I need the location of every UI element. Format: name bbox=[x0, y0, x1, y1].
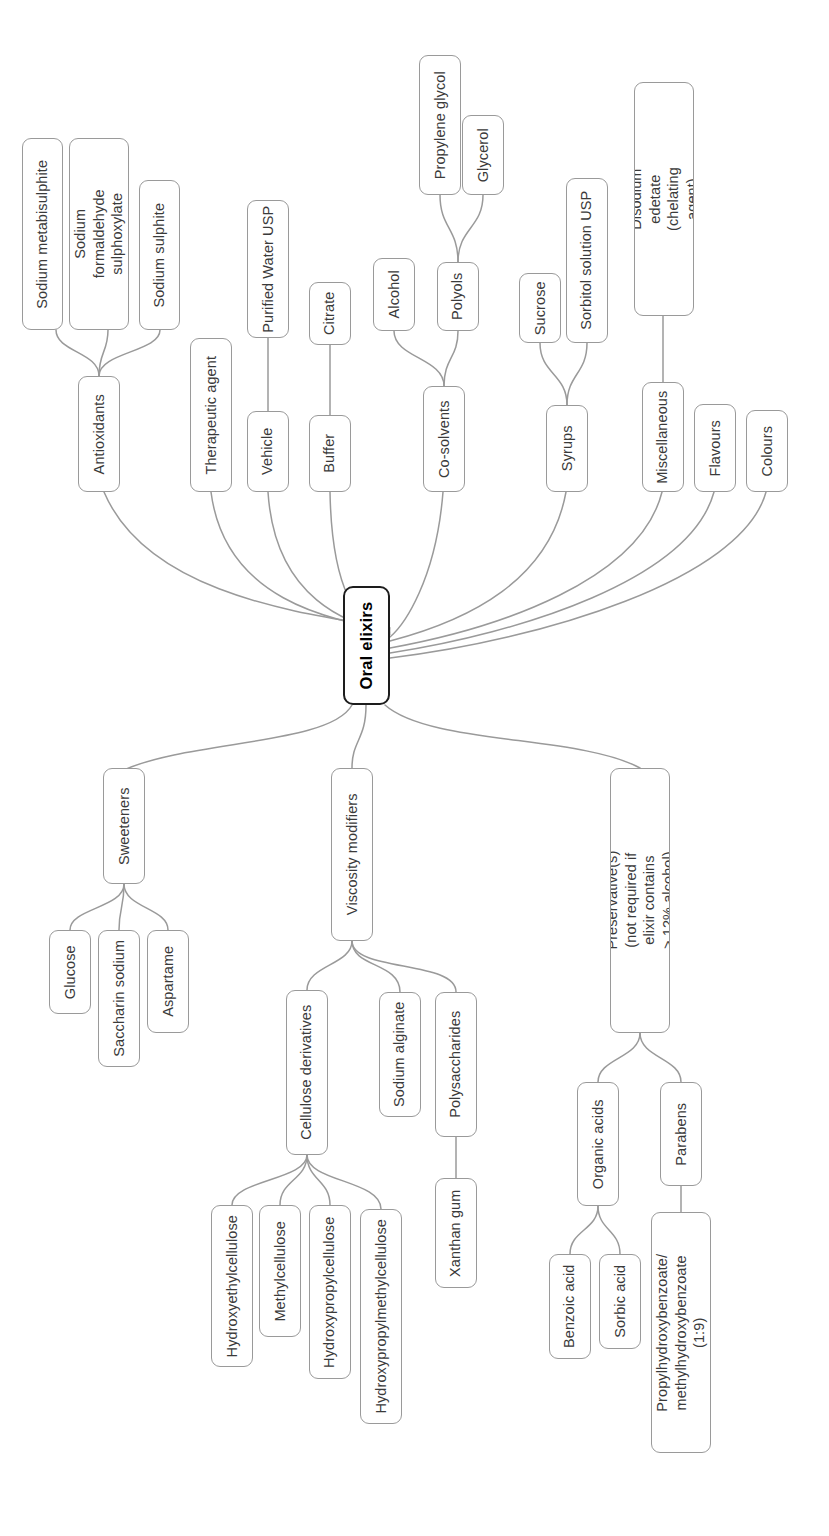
link-cellulose-methylcellulose bbox=[280, 1155, 307, 1205]
link-preservatives-organic-acids bbox=[598, 1033, 640, 1082]
node-label-preservatives: Preservative(s) (not required if elixir … bbox=[610, 851, 670, 950]
node-label-hydroxyethylcellulose: Hydroxyethylcellulose bbox=[223, 1215, 242, 1357]
node-buffer[interactable]: Buffer bbox=[309, 415, 351, 492]
link-cellulose-hydroxypropylmethylcellulose bbox=[307, 1155, 381, 1209]
link-cellulose-hydroxyethylcellulose bbox=[232, 1155, 307, 1205]
node-glucose[interactable]: Glucose bbox=[49, 930, 91, 1014]
node-parabens[interactable]: Parabens bbox=[660, 1082, 702, 1186]
link-root-flavours bbox=[390, 492, 714, 653]
node-label-sweeteners: Sweeteners bbox=[115, 787, 134, 865]
node-aspartame[interactable]: Aspartame bbox=[147, 930, 189, 1033]
node-label-aspartame: Aspartame bbox=[159, 946, 178, 1017]
node-alcohol[interactable]: Alcohol bbox=[373, 258, 415, 331]
node-viscosity-modifiers[interactable]: Viscosity modifiers bbox=[331, 768, 373, 941]
node-label-cosolvents: Co-solvents bbox=[435, 400, 454, 478]
node-label-sodium-sulphite: Sodium sulphite bbox=[150, 203, 169, 308]
node-sodium-formaldehyde-sulphoxylate[interactable]: Sodium formaldehyde sulphoxylate bbox=[69, 138, 129, 330]
node-label-sodium-formaldehyde-sulphoxylate: Sodium formaldehyde sulphoxylate bbox=[71, 189, 127, 278]
mindmap-canvas: Oral elixirs Antioxidants Sodium metabis… bbox=[0, 0, 829, 1536]
link-root-cosolvents bbox=[390, 492, 443, 637]
root-node-oral-elixirs[interactable]: Oral elixirs bbox=[343, 586, 390, 705]
link-sweeteners-aspartame bbox=[124, 884, 168, 930]
link-organic-acids-benzoic bbox=[570, 1206, 598, 1254]
node-label-buffer: Buffer bbox=[321, 434, 340, 473]
link-syrups-sucrose bbox=[540, 343, 567, 405]
node-label-sucrose: Sucrose bbox=[531, 281, 550, 335]
node-xanthan-gum[interactable]: Xanthan gum bbox=[435, 1178, 477, 1288]
node-flavours[interactable]: Flavours bbox=[694, 404, 736, 492]
node-purified-water-usp[interactable]: Purified Water USP bbox=[247, 200, 289, 338]
node-label-hydroxypropylmethylcellulose: Hydroxypropylmethylcellulose bbox=[372, 1219, 391, 1414]
node-label-purified-water-usp: Purified Water USP bbox=[259, 206, 278, 333]
node-paraben-mix[interactable]: Propylhydroxybenzoate/ methylhydroxybenz… bbox=[651, 1212, 711, 1453]
node-organic-acids[interactable]: Organic acids bbox=[577, 1082, 619, 1206]
root-node-label: Oral elixirs bbox=[356, 602, 377, 690]
node-label-sorbic-acid: Sorbic acid bbox=[611, 1265, 630, 1338]
node-vehicle[interactable]: Vehicle bbox=[247, 411, 289, 492]
node-sucrose[interactable]: Sucrose bbox=[519, 273, 561, 343]
node-label-propylene-glycol: Propylene glycol bbox=[431, 71, 450, 179]
node-label-polyols: Polyols bbox=[449, 273, 468, 320]
node-disodium-edetate[interactable]: Disodium edetate (chelating agent) bbox=[634, 82, 694, 316]
node-label-antioxidants: Antioxidants bbox=[90, 394, 109, 474]
node-label-sorbitol-solution-usp: Sorbitol solution USP bbox=[578, 191, 597, 330]
node-label-organic-acids: Organic acids bbox=[589, 1099, 608, 1189]
node-hydroxyethylcellulose[interactable]: Hydroxyethylcellulose bbox=[211, 1205, 253, 1367]
link-root-miscellaneous bbox=[390, 492, 662, 648]
node-label-colours: Colours bbox=[758, 426, 777, 477]
node-sodium-sulphite[interactable]: Sodium sulphite bbox=[139, 180, 180, 330]
node-methylcellulose[interactable]: Methylcellulose bbox=[259, 1205, 301, 1337]
node-antioxidants[interactable]: Antioxidants bbox=[78, 376, 120, 492]
link-root-colours bbox=[390, 492, 766, 658]
link-polyols-propylene-glycol bbox=[440, 195, 458, 262]
node-cosolvents[interactable]: Co-solvents bbox=[423, 386, 465, 492]
node-preservatives[interactable]: Preservative(s) (not required if elixir … bbox=[610, 768, 670, 1033]
node-label-sodium-metabisulphite: Sodium metabisulphite bbox=[33, 160, 52, 309]
link-root-sweeteners bbox=[124, 705, 352, 770]
node-polysaccharides[interactable]: Polysaccharides bbox=[435, 992, 477, 1137]
link-root-preservatives bbox=[385, 705, 640, 768]
node-sodium-metabisulphite[interactable]: Sodium metabisulphite bbox=[22, 138, 63, 330]
node-label-saccharin-sodium: Saccharin sodium bbox=[110, 940, 129, 1057]
node-citrate[interactable]: Citrate bbox=[309, 282, 351, 345]
link-preservatives-parabens bbox=[640, 1033, 681, 1082]
link-viscosity-cellulose-derivatives bbox=[307, 941, 352, 990]
node-label-paraben-mix: Propylhydroxybenzoate/ methylhydroxybenz… bbox=[653, 1254, 709, 1412]
node-sorbic-acid[interactable]: Sorbic acid bbox=[599, 1254, 641, 1349]
link-antioxidants-sodium-metabisulphite bbox=[56, 330, 99, 376]
node-label-vehicle: Vehicle bbox=[259, 428, 278, 475]
node-polyols[interactable]: Polyols bbox=[437, 262, 479, 331]
link-cosolvents-polyols bbox=[444, 331, 458, 386]
link-antioxidants-sodium-formaldehyde bbox=[99, 330, 108, 376]
node-saccharin-sodium[interactable]: Saccharin sodium bbox=[98, 930, 140, 1067]
node-therapeutic-agent[interactable]: Therapeutic agent bbox=[190, 338, 232, 492]
node-label-alcohol: Alcohol bbox=[385, 270, 404, 318]
node-benzoic-acid[interactable]: Benzoic acid bbox=[549, 1254, 591, 1359]
node-label-methylcellulose: Methylcellulose bbox=[271, 1221, 290, 1322]
node-syrups[interactable]: Syrups bbox=[546, 405, 588, 492]
link-syrups-sorbitol bbox=[567, 343, 587, 405]
node-label-hydroxypropylcellulose: Hydroxypropylcellulose bbox=[321, 1216, 340, 1367]
node-propylene-glycol[interactable]: Propylene glycol bbox=[419, 55, 461, 195]
node-label-cellulose-derivatives: Cellulose derivatives bbox=[298, 1005, 317, 1140]
link-viscosity-sodium-alginate bbox=[352, 941, 400, 992]
link-viscosity-polysaccharides bbox=[352, 941, 456, 992]
node-miscellaneous[interactable]: Miscellaneous bbox=[642, 382, 684, 492]
node-glycerol[interactable]: Glycerol bbox=[462, 115, 504, 195]
node-label-citrate: Citrate bbox=[321, 292, 340, 335]
node-label-viscosity-modifiers: Viscosity modifiers bbox=[343, 794, 362, 916]
node-hydroxypropylcellulose[interactable]: Hydroxypropylcellulose bbox=[309, 1205, 351, 1379]
node-sweeteners[interactable]: Sweeteners bbox=[103, 768, 145, 884]
node-cellulose-derivatives[interactable]: Cellulose derivatives bbox=[286, 990, 328, 1155]
link-sweeteners-glucose bbox=[70, 884, 124, 930]
node-sodium-alginate[interactable]: Sodium alginate bbox=[379, 992, 421, 1117]
node-hydroxypropylmethylcellulose[interactable]: Hydroxypropylmethylcellulose bbox=[360, 1209, 402, 1424]
link-polyols-glycerol bbox=[458, 195, 483, 262]
link-cellulose-hydroxypropylcellulose bbox=[307, 1155, 330, 1205]
node-colours[interactable]: Colours bbox=[746, 410, 788, 492]
node-label-sodium-alginate: Sodium alginate bbox=[391, 1002, 410, 1108]
link-organic-acids-sorbic bbox=[598, 1206, 620, 1254]
link-root-viscosity-modifiers bbox=[352, 705, 366, 768]
node-sorbitol-solution-usp[interactable]: Sorbitol solution USP bbox=[566, 178, 608, 343]
link-cosolvents-alcohol bbox=[394, 331, 444, 386]
